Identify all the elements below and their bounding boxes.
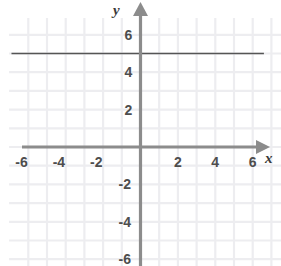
x-axis-label: x xyxy=(265,151,273,166)
axis-lines xyxy=(22,2,270,266)
x-tick-label: -4 xyxy=(53,155,65,169)
y-tick-label: -2 xyxy=(119,177,131,191)
y-tick-label: -4 xyxy=(119,215,131,229)
x-tick-label: 6 xyxy=(249,155,257,169)
x-tick-label: 4 xyxy=(211,155,219,169)
y-tick-label: 2 xyxy=(125,103,133,117)
graph-canvas xyxy=(0,0,281,266)
x-tick-label: 2 xyxy=(174,155,182,169)
x-tick-label: -6 xyxy=(15,155,27,169)
y-tick-label: -6 xyxy=(119,252,131,266)
y-axis-label: y xyxy=(113,3,120,18)
y-tick-label: 4 xyxy=(125,65,133,79)
x-tick-label: -2 xyxy=(90,155,102,169)
coordinate-graph: -6-4-2246642-2-4-6 y x xyxy=(0,0,281,266)
grid-lines xyxy=(9,18,281,266)
y-tick-label: 6 xyxy=(125,28,133,42)
